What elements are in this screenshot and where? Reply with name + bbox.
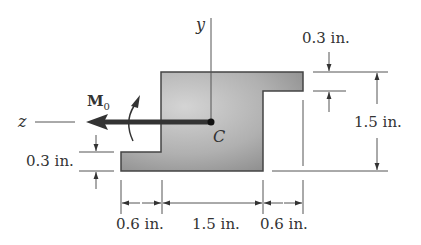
z-section-diagram: y z M0 C 0.3 in. [0,0,421,245]
y-axis-label: y [195,15,206,34]
moment-label: M0 [87,92,110,112]
dim-bottom-flange-label: 0.3 in. [26,152,74,170]
dim-right-overhang-label: 0.6 in. [260,215,308,233]
centroid-label: C [213,127,225,146]
dim-bottom-widths [121,180,303,214]
dim-height-label: 1.5 in. [354,113,402,131]
dim-top-flange-label: 0.3 in. [302,29,350,47]
dim-web-width-label: 1.5 in. [192,215,240,233]
centroid-point [208,119,215,126]
z-axis-label: z [17,112,27,131]
moment-rotation-arc-icon [129,95,140,141]
dim-bottom-flange-thickness [79,135,114,189]
dim-left-overhang-label: 0.6 in. [116,215,164,233]
